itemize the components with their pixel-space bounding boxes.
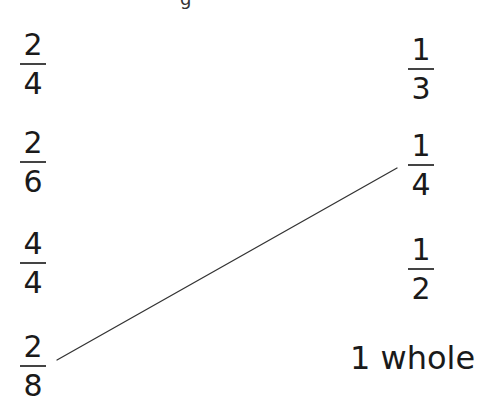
denominator: 4 xyxy=(411,170,430,200)
denominator: 3 xyxy=(411,74,430,104)
fraction-left-2-8[interactable]: 2 8 xyxy=(13,332,53,401)
numerator: 1 xyxy=(411,131,430,161)
numerator: 2 xyxy=(23,30,42,60)
fraction-bar xyxy=(20,63,46,65)
numerator: 2 xyxy=(23,332,42,362)
fraction-bar xyxy=(20,365,46,367)
fraction-bar xyxy=(20,161,46,163)
denominator: 4 xyxy=(23,268,42,298)
denominator: 6 xyxy=(23,167,42,197)
fraction-bar xyxy=(408,268,434,270)
numerator: 1 xyxy=(411,35,430,65)
denominator: 4 xyxy=(23,69,42,99)
clipped-heading-fragment: g xyxy=(180,0,191,9)
fraction-right-1-3[interactable]: 1 3 xyxy=(401,35,441,104)
numerator: 1 xyxy=(411,235,430,265)
fraction-bar xyxy=(20,262,46,264)
fraction-left-2-4[interactable]: 2 4 xyxy=(13,30,53,99)
fraction-left-4-4[interactable]: 4 4 xyxy=(13,229,53,298)
numerator: 4 xyxy=(23,229,42,259)
fraction-right-1-4[interactable]: 1 4 xyxy=(401,131,441,200)
fraction-right-1-2[interactable]: 1 2 xyxy=(401,235,441,304)
denominator: 8 xyxy=(23,371,42,401)
numerator: 2 xyxy=(23,128,42,158)
fraction-bar xyxy=(408,68,434,70)
fraction-bar xyxy=(408,164,434,166)
denominator: 2 xyxy=(411,274,430,304)
one-whole-label[interactable]: 1 whole xyxy=(350,340,475,376)
fraction-left-2-6[interactable]: 2 6 xyxy=(13,128,53,197)
